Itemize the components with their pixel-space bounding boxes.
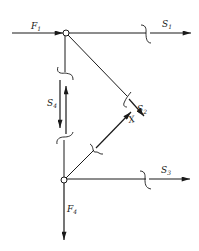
cut-brace-s4-bottom [57,132,73,144]
label-s2: S2 [137,104,147,115]
node-top [63,30,69,36]
label-s4: S4 [47,98,57,109]
node-bottom [61,177,67,183]
member-s1 [69,25,191,43]
member-s4 [57,36,73,177]
diagram-canvas: F1 S1 S2 X S4 S3 F4 [0,0,199,251]
cut-brace-s1 [141,25,151,43]
label-f4: F4 [66,204,77,215]
member-s2 [68,35,144,116]
member-x [66,112,131,178]
label-s3: S3 [161,165,171,176]
label-f1: F1 [30,21,41,32]
cut-brace-s3 [140,171,151,189]
label-x: X [127,114,137,125]
member-s3 [67,171,190,189]
truss-diagram: F1 S1 S2 X S4 S3 F4 [0,0,199,251]
label-s1: S1 [162,19,172,30]
